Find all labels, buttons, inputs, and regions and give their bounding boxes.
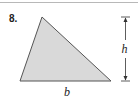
triangle-shape xyxy=(20,17,111,81)
arrow-up-icon xyxy=(124,18,128,23)
height-label: h xyxy=(122,42,128,56)
triangle-figure: h b xyxy=(0,0,138,102)
base-label: b xyxy=(64,85,70,99)
arrow-down-icon xyxy=(124,76,128,81)
